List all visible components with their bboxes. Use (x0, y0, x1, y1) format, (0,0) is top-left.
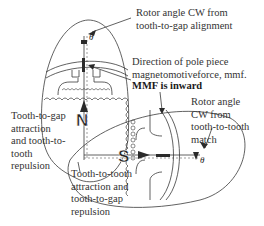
right-mmf-bar (156, 154, 170, 157)
top-pole-piece (72, 70, 100, 77)
label-left-attraction: Tooth-to-gap attraction and tooth-to- to… (11, 110, 66, 173)
diagram-canvas: N S θ θ Rotor angle CW from tooth-to-gap… (0, 0, 264, 226)
north-pole-label: N (76, 111, 88, 130)
top-mmf-bar (82, 58, 85, 72)
label-bottom-attraction: Tooth-to-tooth attraction and tooth-to-g… (71, 168, 132, 218)
rotor-circles (131, 120, 135, 160)
label-top-rotor-angle: Rotor angle CW from tooth-to-gap alignme… (136, 7, 233, 32)
right-pole-shoe (136, 128, 145, 174)
right-angle-marker (193, 152, 199, 160)
label-mmf-inward: MMF is inward (132, 80, 202, 93)
south-pole-label: S (118, 147, 129, 166)
mmf-inward-leader (160, 92, 162, 110)
label-mmf-direction: Direction of pole piece magnetomotivefor… (132, 56, 247, 81)
top-teeth (44, 98, 128, 100)
top-theta-symbol: θ (89, 32, 94, 42)
top-rotor-leader (92, 18, 131, 32)
top-pole-shoe (58, 78, 112, 95)
right-theta-symbol: θ (200, 155, 205, 165)
top-small-teeth (62, 89, 110, 91)
label-right-rotor-angle: Rotor angle CW from tooth-to-tooth match (191, 96, 249, 146)
top-angle-marker (81, 40, 87, 44)
